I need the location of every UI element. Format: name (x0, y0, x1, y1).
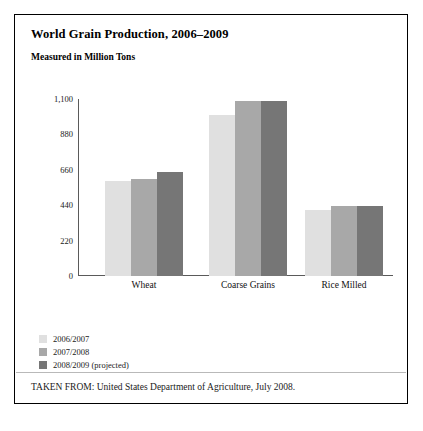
bar (331, 206, 357, 276)
category-label: Rice Milled (285, 280, 403, 290)
bar (209, 115, 235, 276)
chart-page: World Grain Production, 2006–2009 Measur… (0, 0, 423, 431)
chart-legend: 2006/20072007/20082008/2009 (projected) (39, 333, 129, 372)
y-tick-label: 880 (25, 129, 73, 139)
legend-label: 2008/2009 (projected) (53, 360, 129, 370)
bar (357, 206, 383, 276)
bar-group (209, 99, 287, 276)
legend-item: 2006/2007 (39, 333, 129, 344)
legend-item: 2007/2008 (39, 346, 129, 357)
source-note: TAKEN FROM: United States Department of … (31, 382, 295, 392)
y-tick-label: 0 (25, 271, 73, 281)
category-label: Wheat (85, 280, 203, 290)
legend-swatch (39, 335, 47, 343)
legend-swatch (39, 348, 47, 356)
legend-source-divider (16, 372, 406, 373)
bar (105, 181, 131, 276)
legend-swatch (39, 361, 47, 369)
bar (157, 172, 183, 276)
bar-series-layer (78, 99, 393, 276)
y-tick-label: 660 (25, 165, 73, 175)
bar (305, 210, 331, 276)
legend-label: 2006/2007 (53, 334, 89, 344)
bar (261, 101, 287, 276)
y-tick-label: 220 (25, 236, 73, 246)
y-tick-label: 1,100 (25, 94, 73, 104)
bar-group (305, 99, 383, 276)
legend-item: 2008/2009 (projected) (39, 359, 129, 370)
chart-frame: World Grain Production, 2006–2009 Measur… (14, 14, 408, 404)
legend-label: 2007/2008 (53, 347, 89, 357)
bar-group (105, 99, 183, 276)
bar (235, 101, 261, 276)
y-tick-label: 440 (25, 200, 73, 210)
bar (131, 179, 157, 276)
